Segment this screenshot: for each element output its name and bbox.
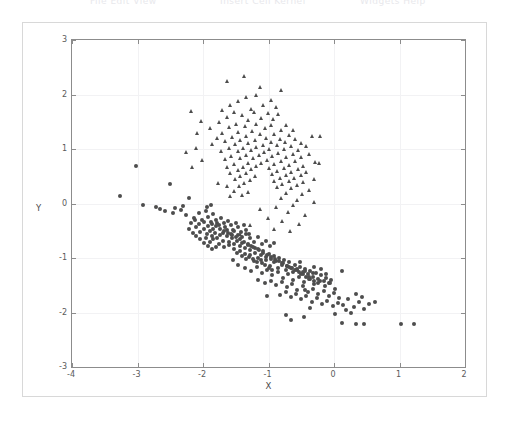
scatter-point-triangle	[284, 155, 288, 159]
scatter-point-circle	[270, 268, 274, 272]
scatter-point-triangle	[307, 188, 311, 192]
scatter-point-triangle	[304, 170, 308, 174]
scatter-point-circle	[278, 293, 282, 297]
scatter-point-triangle	[287, 133, 291, 137]
scatter-point-circle	[354, 322, 358, 326]
scatter-point-triangle	[299, 173, 303, 177]
scatter-point-triangle	[242, 74, 246, 78]
scatter-point-triangle	[216, 181, 220, 185]
scatter-point-triangle	[199, 119, 203, 123]
scatter-point-triangle	[291, 152, 295, 156]
scatter-point-triangle	[220, 108, 224, 112]
scatter-point-triangle	[236, 99, 240, 103]
scatter-point-triangle	[233, 142, 237, 146]
scatter-point-circle	[211, 237, 215, 241]
scatter-point-circle	[311, 287, 315, 291]
scatter-point-circle	[276, 270, 280, 274]
scatter-point-circle	[336, 301, 340, 305]
x-tick-label: 2	[461, 370, 466, 379]
x-tick-mark	[400, 40, 401, 44]
scatter-point-circle	[310, 300, 314, 304]
scatter-point-circle	[242, 223, 246, 227]
scatter-point-triangle	[317, 161, 321, 165]
scatter-point-triangle	[289, 144, 293, 148]
scatter-point-triangle	[184, 150, 188, 154]
scatter-point-circle	[256, 235, 260, 239]
scatter-point-triangle	[253, 138, 257, 142]
scatter-point-triangle	[242, 181, 246, 185]
scatter-point-triangle	[246, 141, 250, 145]
scatter-point-triangle	[250, 129, 254, 133]
scatter-point-triangle	[246, 190, 250, 194]
scatter-point-triangle	[259, 116, 263, 120]
scatter-point-triangle	[263, 126, 267, 130]
x-tick-label: 1	[396, 370, 401, 379]
scatter-point-triangle	[297, 222, 301, 226]
scatter-point-triangle	[266, 216, 270, 220]
scatter-point-circle	[269, 279, 273, 283]
scatter-point-triangle	[244, 134, 248, 138]
scatter-point-triangle	[248, 223, 252, 227]
x-axis-label: X	[71, 381, 466, 391]
scatter-point-triangle	[300, 192, 304, 196]
scatter-point-circle	[213, 231, 217, 235]
scatter-point-triangle	[225, 184, 229, 188]
scatter-point-circle	[354, 292, 358, 296]
scatter-point-triangle	[246, 118, 250, 122]
scatter-point-triangle	[230, 135, 234, 139]
scatter-point-circle	[367, 302, 371, 306]
scatter-point-triangle	[312, 177, 316, 181]
scatter-point-triangle	[293, 159, 297, 163]
scatter-point-circle	[256, 278, 260, 282]
scatter-point-triangle	[275, 169, 279, 173]
y-tick-mark	[461, 204, 465, 205]
scatter-point-triangle	[291, 128, 295, 132]
y-tick-mark	[72, 258, 76, 259]
scatter-point-circle	[255, 260, 259, 264]
scatter-point-triangle	[238, 138, 242, 142]
scatter-point-circle	[340, 269, 344, 273]
scatter-point-triangle	[284, 191, 288, 195]
y-tick-label: 0	[55, 198, 67, 207]
scatter-point-triangle	[271, 117, 275, 121]
scatter-point-circle	[284, 290, 288, 294]
scatter-point-circle	[285, 285, 289, 289]
scatter-point-triangle	[217, 120, 221, 124]
scatter-point-triangle	[253, 174, 257, 178]
scatter-point-triangle	[301, 180, 305, 184]
scatter-point-circle	[187, 227, 191, 231]
scatter-point-triangle	[258, 207, 262, 211]
scatter-point-circle	[229, 223, 233, 227]
scatter-plot-axes[interactable]	[71, 39, 466, 368]
y-tick-mark	[461, 40, 465, 41]
scatter-point-triangle	[312, 200, 316, 204]
scatter-point-triangle	[232, 162, 236, 166]
scatter-point-triangle	[252, 110, 256, 114]
scatter-point-triangle	[292, 176, 296, 180]
scatter-point-circle	[357, 300, 361, 304]
scatter-point-circle	[272, 241, 276, 245]
x-tick-mark	[334, 363, 335, 367]
scatter-point-triangle	[279, 196, 283, 200]
scatter-point-triangle	[272, 162, 276, 166]
scatter-point-triangle	[318, 134, 322, 138]
scatter-point-triangle	[241, 146, 245, 150]
scatter-point-triangle	[238, 156, 242, 160]
scatter-point-circle	[304, 294, 308, 298]
scatter-point-circle	[163, 209, 167, 213]
scatter-point-circle	[337, 296, 341, 300]
scatter-point-triangle	[189, 109, 193, 113]
scatter-point-circle	[294, 292, 298, 296]
scatter-point-circle	[260, 271, 264, 275]
scatter-point-triangle	[240, 113, 244, 117]
scatter-point-circle	[319, 273, 323, 277]
scatter-point-triangle	[279, 128, 283, 132]
scatter-point-circle	[298, 260, 302, 264]
scatter-point-triangle	[280, 182, 284, 186]
x-tick-mark	[203, 363, 204, 367]
scatter-point-triangle	[310, 134, 314, 138]
scatter-point-circle	[141, 203, 145, 207]
scatter-point-circle	[327, 294, 331, 298]
scatter-point-circle	[322, 289, 326, 293]
x-tick-label: -1	[264, 370, 272, 379]
